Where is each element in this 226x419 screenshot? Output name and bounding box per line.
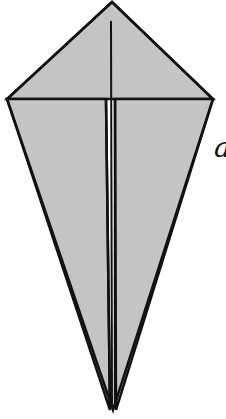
center-crease-line [111, 21, 112, 408]
step-label: a [214, 134, 226, 162]
top-flap [7, 2, 213, 99]
kite-fold-diagram [0, 0, 226, 419]
